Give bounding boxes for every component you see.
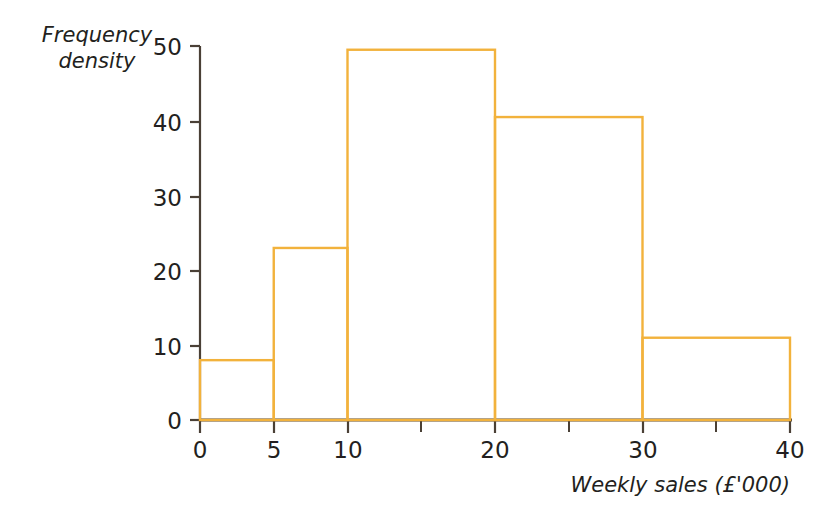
- y-tick-label-30: 30: [153, 185, 182, 211]
- x-tick-label-0: 0: [193, 437, 208, 463]
- histogram-chart: 0 10 20 30 40 50 0 5 10 20 30: [0, 0, 822, 506]
- x-axis-ticks: [200, 420, 790, 433]
- x-tick-label-5: 5: [267, 437, 282, 463]
- histogram-bars: [200, 50, 790, 420]
- y-tick-label-0: 0: [167, 408, 182, 434]
- x-axis-tick-labels: 0 5 10 20 30 40: [193, 437, 805, 463]
- x-axis-minor-ticks: [421, 420, 716, 432]
- y-tick-label-10: 10: [153, 334, 182, 360]
- y-tick-label-40: 40: [153, 110, 182, 136]
- y-axis-tick-labels: 0 10 20 30 40 50: [153, 34, 182, 434]
- histogram-bar: [348, 50, 496, 420]
- y-axis-ticks: [190, 46, 200, 420]
- y-axis-title-line1: Frequency: [42, 23, 153, 47]
- histogram-plot: 0 10 20 30 40 50 0 5 10 20 30: [0, 0, 822, 506]
- x-tick-label-30: 30: [628, 437, 657, 463]
- histogram-bar: [643, 338, 791, 420]
- y-axis-title-line2: density: [59, 49, 137, 73]
- histogram-bar: [495, 117, 643, 420]
- y-tick-label-20: 20: [153, 259, 182, 285]
- x-axis-title: Weekly sales (£'000): [571, 473, 791, 497]
- y-tick-label-50: 50: [153, 34, 182, 60]
- x-tick-label-40: 40: [775, 437, 804, 463]
- histogram-bar: [200, 360, 274, 420]
- x-tick-label-10: 10: [333, 437, 362, 463]
- x-tick-label-20: 20: [480, 437, 509, 463]
- y-axis-title: Frequency density: [42, 23, 153, 73]
- histogram-bar: [274, 248, 348, 420]
